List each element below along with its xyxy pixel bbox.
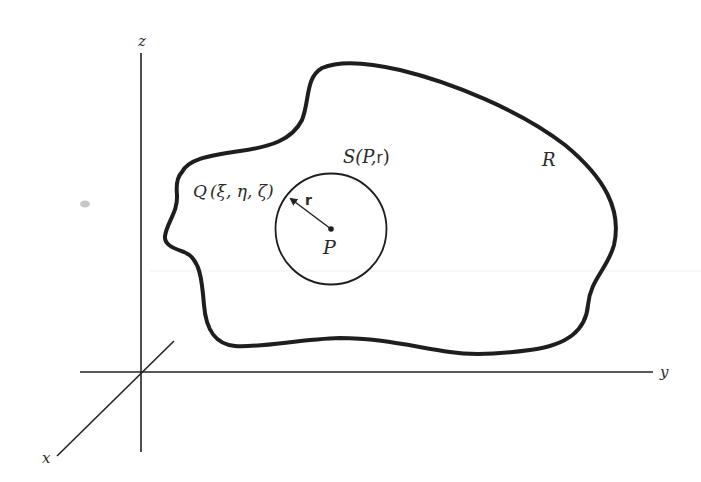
sphere-label-s: S xyxy=(343,146,355,167)
x-axis xyxy=(57,341,174,456)
point-q-name: Q xyxy=(193,181,207,201)
point-q-label: Q(ξ, η, ζ) xyxy=(193,181,274,201)
region-r-boundary xyxy=(165,63,616,354)
sphere-label-close: ) xyxy=(383,146,390,167)
x-axis-label: x xyxy=(42,449,51,467)
center-point-p xyxy=(328,226,334,232)
region-label-r: R xyxy=(541,149,556,170)
point-q-coords: (ξ, η, ζ) xyxy=(210,181,274,201)
center-label-p: P xyxy=(322,236,337,258)
diagram-canvas: z y x P r S(P,r) Q(ξ, η, ζ) R xyxy=(0,0,701,482)
y-axis-label: y xyxy=(659,363,669,381)
radius-label: r xyxy=(305,192,312,208)
scan-smudge xyxy=(80,201,90,208)
sphere-label-args: (P, xyxy=(355,146,376,167)
z-axis-label: z xyxy=(137,32,146,50)
sphere-label: S(P,r) xyxy=(343,146,390,167)
